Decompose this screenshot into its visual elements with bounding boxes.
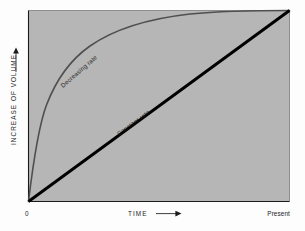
x-axis-title: TIME xyxy=(128,210,147,217)
x-axis-tick-origin: 0 xyxy=(25,210,29,217)
x-axis-tick-present: Present xyxy=(267,210,290,217)
figure-container: Decreasing rate Constant rate INCREASE O… xyxy=(0,0,305,231)
line-chart: Decreasing rate Constant rate INCREASE O… xyxy=(0,0,305,231)
x-axis-right-arrow-icon xyxy=(156,211,182,217)
